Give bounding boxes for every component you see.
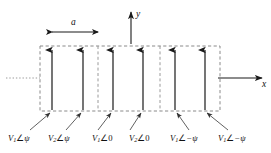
diagram-svg (0, 0, 271, 153)
x-axis-label: x (262, 79, 266, 89)
leader-line-5 (177, 113, 189, 130)
y-axis-label: y (136, 9, 140, 19)
phase-value-5: −ψ (186, 133, 197, 143)
figure-canvas: a y x V1∠ψ V2∠ψ V1∠0 V2∠0 V1∠−ψ V1∠−ψ (0, 0, 271, 153)
phase-value-4: 0 (145, 133, 149, 143)
phase-value-3: 0 (108, 133, 112, 143)
phase-value-2: ψ (64, 133, 69, 143)
phase-value-6: −ψ (234, 133, 245, 143)
voltage-label-1: V1∠ψ (8, 134, 30, 144)
leader-line-6 (207, 113, 228, 130)
leader-line-1 (30, 113, 50, 130)
voltage-label-3: V1∠0 (92, 134, 113, 144)
voltage-label-4: V2∠0 (129, 134, 150, 144)
leader-line-2 (66, 113, 81, 130)
phase-value-1: ψ (24, 133, 29, 143)
voltage-label-6: V1∠−ψ (218, 134, 245, 144)
dimension-a-label: a (71, 18, 76, 28)
array-aperture-boundary (40, 46, 220, 111)
voltage-label-5: V1∠−ψ (170, 134, 197, 144)
voltage-label-2: V2∠ψ (48, 134, 70, 144)
leader-line-4 (130, 113, 141, 130)
leader-line-3 (98, 113, 111, 130)
